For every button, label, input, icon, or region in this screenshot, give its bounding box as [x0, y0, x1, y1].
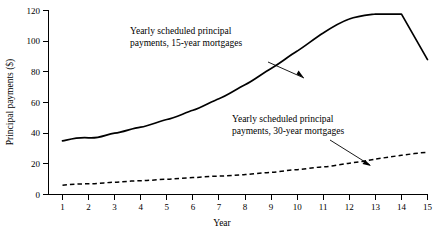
- x-tick-label: 15: [423, 202, 433, 212]
- y-tick-label: 40: [31, 128, 41, 138]
- y-axis-title: Principal payments ($): [5, 59, 16, 146]
- x-tick-label: 4: [138, 202, 143, 212]
- annotation-30-year-leader: [330, 140, 370, 165]
- annotation-30-year-line1: Yearly scheduled principal: [232, 114, 334, 124]
- y-axis-tick-labels: 0 20 40 60 80 100 120: [27, 6, 41, 200]
- y-tick-label: 100: [27, 36, 41, 46]
- x-axis-tick-labels: 1 2 3 4 5 6 7 8 9 10 11 12 13 14 15: [60, 202, 432, 212]
- annotation-15-year-leader: [268, 62, 304, 78]
- x-tick-label: 14: [397, 202, 407, 212]
- x-tick-label: 2: [86, 202, 91, 212]
- x-tick-label: 3: [112, 202, 117, 212]
- annotation-15-year-arrowhead: [297, 71, 305, 78]
- x-axis-ticks: [63, 195, 428, 201]
- chart-svg: 0 20 40 60 80 100 120: [0, 0, 435, 230]
- y-tick-label: 120: [27, 6, 41, 16]
- annotation-15-year-line2: payments, 15-year mortgages: [130, 38, 242, 48]
- y-tick-label: 60: [31, 98, 41, 108]
- x-tick-label: 12: [345, 202, 354, 212]
- x-tick-label: 1: [60, 202, 65, 212]
- x-tick-label: 8: [243, 202, 248, 212]
- x-tick-label: 6: [191, 202, 196, 212]
- x-tick-label: 10: [293, 202, 303, 212]
- annotation-30-year-line2: payments, 30-year mortgages: [232, 126, 344, 136]
- annotation-15-year: Yearly scheduled principal payments, 15-…: [130, 26, 304, 78]
- annotation-15-year-line1: Yearly scheduled principal: [130, 26, 232, 36]
- series-line-30-year: [63, 152, 428, 185]
- x-tick-label: 11: [319, 202, 328, 212]
- y-tick-label: 0: [36, 190, 41, 200]
- x-tick-label: 9: [269, 202, 274, 212]
- y-axis-ticks: [43, 11, 49, 195]
- chart-container: 0 20 40 60 80 100 120: [0, 0, 435, 230]
- annotation-30-year: Yearly scheduled principal payments, 30-…: [232, 114, 371, 166]
- x-axis-title: Year: [213, 218, 231, 228]
- x-tick-label: 7: [217, 202, 222, 212]
- y-tick-label: 20: [31, 159, 41, 169]
- y-tick-label: 80: [31, 67, 41, 77]
- x-tick-label: 5: [165, 202, 170, 212]
- x-tick-label: 13: [371, 202, 381, 212]
